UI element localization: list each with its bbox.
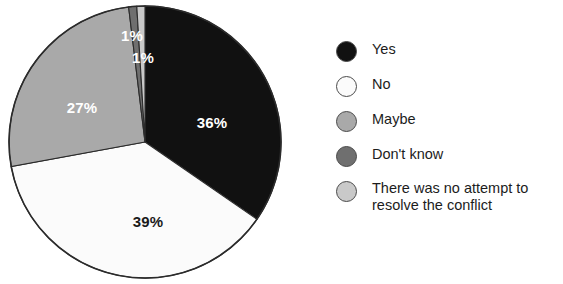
legend-item-yes[interactable]: Yes bbox=[336, 40, 561, 62]
legend-swatch-icon-no-attempt bbox=[336, 181, 357, 202]
legend-swatch-icon-dont-know bbox=[336, 146, 357, 167]
legend-item-maybe[interactable]: Maybe bbox=[336, 110, 561, 132]
slice-label-no: 39% bbox=[133, 213, 164, 230]
legend-label-yes: Yes bbox=[372, 40, 396, 58]
slice-label-dont-know: 1% bbox=[121, 27, 143, 44]
chart-legend: Yes No Maybe Don't know There was no att… bbox=[336, 40, 561, 214]
legend-swatch-icon-no bbox=[336, 76, 357, 97]
legend-swatch-icon-yes bbox=[336, 41, 357, 62]
pie-chart-plot-area: 36% 39% 27% 1% 1% bbox=[0, 0, 300, 284]
legend-item-no-attempt[interactable]: There was no attempt to resolve the conf… bbox=[336, 180, 561, 214]
legend-label-dont-know: Don't know bbox=[372, 145, 443, 163]
pie-slices-group bbox=[9, 6, 281, 278]
legend-label-no-attempt: There was no attempt to resolve the conf… bbox=[372, 180, 528, 214]
legend-label-maybe: Maybe bbox=[372, 110, 416, 128]
pie-chart-svg: 36% 39% 27% 1% 1% bbox=[0, 0, 300, 284]
slice-label-yes: 36% bbox=[197, 114, 228, 131]
legend-label-no: No bbox=[372, 75, 391, 93]
legend-item-no[interactable]: No bbox=[336, 75, 561, 97]
pie-chart-figure: 36% 39% 27% 1% 1% Yes No Maybe Don't kno… bbox=[0, 0, 563, 284]
legend-swatch-icon-maybe bbox=[336, 111, 357, 132]
slice-label-no-attempt: 1% bbox=[132, 49, 154, 66]
slice-label-maybe: 27% bbox=[67, 99, 98, 116]
legend-item-dont-know[interactable]: Don't know bbox=[336, 145, 561, 167]
